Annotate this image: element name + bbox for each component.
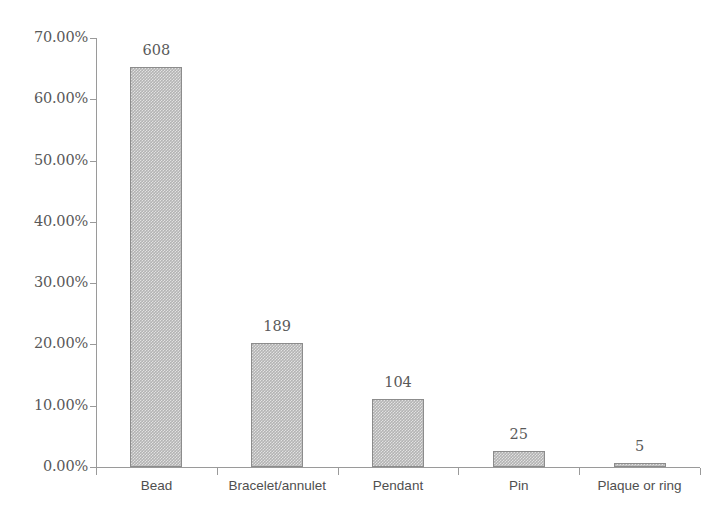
x-axis-tick	[96, 468, 97, 475]
x-axis-line	[96, 467, 700, 468]
y-axis-tick	[90, 222, 96, 223]
bar	[251, 343, 303, 467]
y-axis-tick-label: 40.00%	[0, 213, 88, 229]
bar	[372, 399, 424, 467]
bar-value-label: 189	[217, 318, 337, 334]
x-axis-tick	[700, 468, 701, 475]
x-axis-tick	[579, 468, 580, 475]
y-axis-tick-label: 30.00%	[0, 274, 88, 290]
y-axis-tick-label: 60.00%	[0, 90, 88, 106]
bar-chart: 0.00%10.00%20.00%30.00%40.00%50.00%60.00…	[0, 0, 721, 516]
bar-value-label: 5	[580, 438, 700, 454]
y-axis-tick	[90, 283, 96, 284]
y-axis-tick	[90, 161, 96, 162]
y-axis-tick-label-text: 50.00%	[2, 152, 88, 168]
y-axis-tick-label-text: 20.00%	[2, 335, 88, 351]
y-axis-tick	[90, 344, 96, 345]
y-axis-tick-label: 10.00%	[0, 397, 88, 413]
x-axis-category-label: Plaque or ring	[560, 478, 720, 493]
bar-value-label: 608	[96, 42, 216, 58]
y-axis-tick	[90, 38, 96, 39]
bar	[130, 67, 182, 467]
y-axis-tick-label-text: 30.00%	[2, 274, 88, 290]
x-axis-tick	[458, 468, 459, 475]
y-axis-tick-label-text: 40.00%	[2, 213, 88, 229]
y-axis-tick-label: 50.00%	[0, 152, 88, 168]
y-axis-tick-label-text: 70.00%	[2, 29, 88, 45]
y-axis-tick-label-text: 0.00%	[2, 458, 88, 474]
x-axis-tick	[217, 468, 218, 475]
y-axis-tick	[90, 99, 96, 100]
y-axis-tick-label: 20.00%	[0, 335, 88, 351]
bar	[614, 463, 666, 467]
x-axis-tick	[338, 468, 339, 475]
y-axis-tick-label: 70.00%	[0, 29, 88, 45]
bar-value-label: 25	[459, 426, 579, 442]
y-axis-tick-label-text: 10.00%	[2, 397, 88, 413]
y-axis-line	[96, 38, 97, 468]
y-axis-tick-label: 0.00%	[0, 458, 88, 474]
y-axis-tick-label-text: 60.00%	[2, 90, 88, 106]
y-axis-tick	[90, 406, 96, 407]
bar	[493, 451, 545, 467]
bar-value-label: 104	[338, 374, 458, 390]
